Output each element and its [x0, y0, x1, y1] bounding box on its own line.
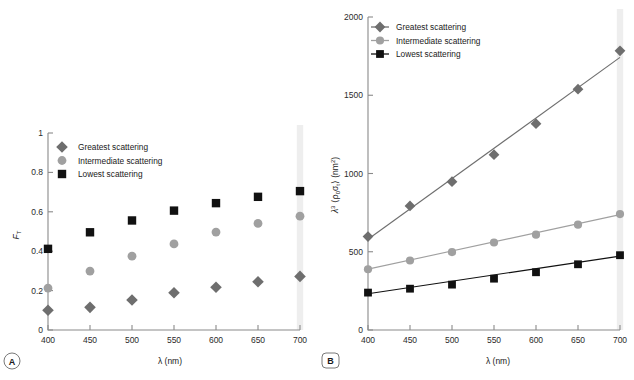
- x-tick-label: 500: [125, 335, 139, 345]
- y-tick-label: 0.4: [31, 246, 43, 256]
- y-tick-labels-b: 0500100015002000: [344, 12, 363, 335]
- data-point: [296, 187, 304, 195]
- data-point: [615, 45, 626, 56]
- y-tick-label: 2000: [344, 12, 363, 22]
- y-tick-label: 1000: [344, 169, 363, 179]
- data-point: [212, 228, 221, 237]
- y-tick-label: 0: [38, 325, 43, 335]
- x-tick-label: 600: [529, 335, 543, 345]
- data-point: [406, 285, 414, 293]
- x-tick-label: 600: [209, 335, 223, 345]
- data-point: [86, 267, 95, 276]
- data-point: [170, 206, 178, 214]
- y-axis-title-a-text: FT: [11, 230, 22, 239]
- legend-marker: [58, 156, 67, 165]
- x-axis-title-a: λ (nm): [158, 356, 182, 366]
- highlight-band: [297, 125, 303, 330]
- x-tick-labels-a: 400450500550600650700: [41, 335, 307, 345]
- data-points-b: [363, 45, 626, 296]
- x-tick-labels-b: 400450500550600650700: [361, 335, 627, 345]
- data-point: [405, 201, 416, 212]
- data-point: [447, 176, 458, 187]
- data-point: [294, 271, 306, 283]
- legend-marker: [376, 50, 384, 58]
- legend-label: Intermediate scattering: [396, 36, 481, 46]
- data-point: [128, 216, 136, 224]
- y-tick-label: 0.6: [31, 207, 43, 217]
- data-point: [363, 231, 374, 242]
- y-tick-label: 0.2: [31, 286, 43, 296]
- data-point: [212, 199, 220, 207]
- data-point: [254, 193, 262, 201]
- panel-letter-b-text: B: [327, 356, 334, 366]
- data-point: [616, 251, 624, 259]
- x-tick-label: 650: [571, 335, 585, 345]
- y-tick-label: 1: [38, 128, 43, 138]
- axes-b: [368, 17, 620, 330]
- data-point: [86, 228, 94, 236]
- x-tick-label: 550: [487, 335, 501, 345]
- x-tick-label: 400: [361, 335, 375, 345]
- data-point: [531, 118, 542, 129]
- data-point: [532, 231, 540, 239]
- panel-letter-b: B: [322, 353, 339, 368]
- x-tick-label: 700: [293, 335, 307, 345]
- y-tick-label: 1500: [344, 90, 363, 100]
- data-point: [42, 305, 54, 317]
- highlight-band: [617, 9, 623, 330]
- legend-label: Lowest scattering: [78, 169, 143, 179]
- panel-letter-a: A: [4, 353, 20, 369]
- highlight-band-b: [617, 9, 623, 330]
- data-point: [490, 275, 498, 283]
- x-axis-title-b: λ (nm): [486, 356, 510, 366]
- data-point: [168, 287, 180, 299]
- legend-marker: [56, 141, 68, 153]
- x-tick-label: 400: [41, 335, 55, 345]
- figure-container: 400450500550600650700 00.20.40.60.81 Gre…: [0, 0, 634, 380]
- data-point: [448, 248, 456, 256]
- y-tick-labels-a: 00.20.40.60.81: [31, 128, 43, 335]
- data-point: [364, 265, 372, 273]
- y-axis-title-b-text: λ3 ⟨ρ0σt⟩ (nm2): [330, 157, 341, 214]
- y-tick-label: 0.8: [31, 167, 43, 177]
- x-tick-label: 650: [251, 335, 265, 345]
- data-point: [252, 276, 264, 288]
- y-tick-label: 500: [349, 247, 363, 257]
- x-tick-label: 450: [83, 335, 97, 345]
- legend-marker: [376, 36, 384, 44]
- data-point: [490, 238, 498, 246]
- legend-label: Lowest scattering: [396, 49, 461, 59]
- data-point: [364, 289, 372, 297]
- data-point: [210, 281, 222, 293]
- legend-label: Greatest scattering: [396, 22, 466, 32]
- data-point: [574, 221, 582, 229]
- data-point: [44, 245, 52, 253]
- legend-b: Greatest scatteringIntermediate scatteri…: [371, 22, 481, 60]
- x-tick-label: 550: [167, 335, 181, 345]
- data-point: [406, 256, 414, 264]
- data-point: [84, 302, 96, 314]
- legend-marker: [375, 22, 386, 33]
- legend-marker: [58, 170, 66, 178]
- panel-a: 400450500550600650700 00.20.40.60.81 Gre…: [0, 0, 318, 380]
- data-point: [574, 260, 582, 268]
- legend-a: Greatest scatteringIntermediate scatteri…: [56, 141, 163, 179]
- panel-b: 400450500550600650700 0500100015002000 G…: [318, 0, 634, 380]
- axis-spines: [368, 17, 620, 330]
- data-point: [532, 268, 540, 276]
- highlight-band-a: [297, 125, 303, 330]
- x-tick-label: 700: [613, 335, 627, 345]
- panel-a-plot: 400450500550600650700 00.20.40.60.81 Gre…: [0, 0, 318, 380]
- legend-label: Intermediate scattering: [78, 156, 163, 166]
- data-point: [296, 212, 305, 221]
- data-point: [128, 252, 137, 261]
- panel-b-plot: 400450500550600650700 0500100015002000 G…: [318, 0, 634, 380]
- x-tick-label: 500: [445, 335, 459, 345]
- tick-marks-b: [368, 17, 620, 330]
- x-tick-label: 450: [403, 335, 417, 345]
- data-point: [170, 240, 179, 249]
- fit-lines-b: [368, 57, 620, 293]
- data-point: [254, 219, 263, 228]
- y-tick-label: 0: [358, 325, 363, 335]
- data-point: [44, 284, 53, 293]
